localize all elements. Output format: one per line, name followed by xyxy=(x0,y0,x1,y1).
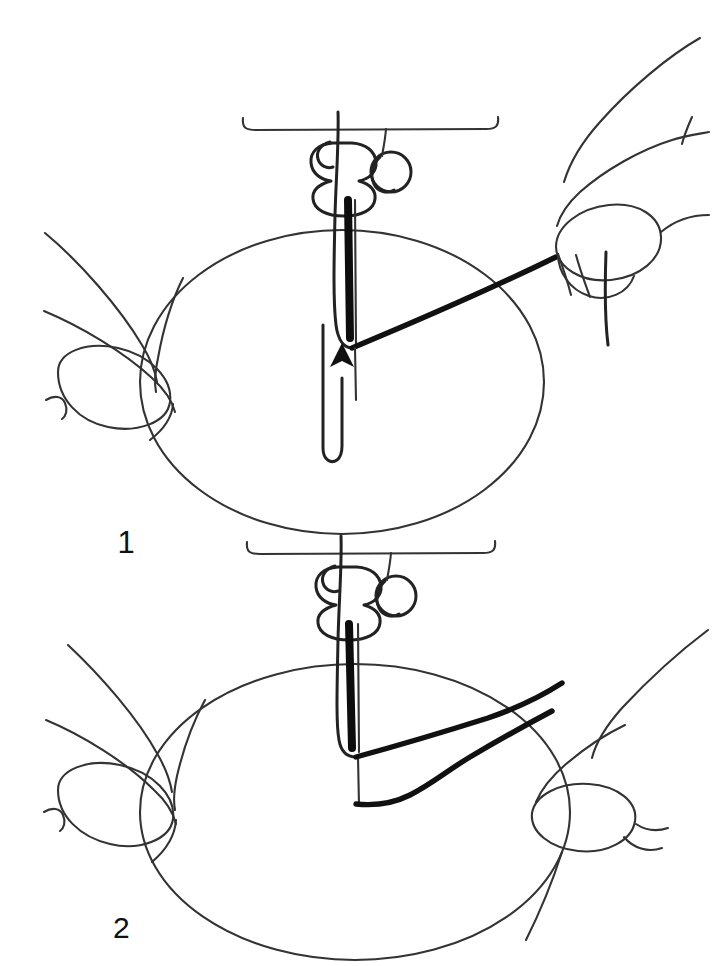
needle-tip xyxy=(358,757,359,805)
step-label-1: 1 xyxy=(117,525,134,560)
needle-outline-right xyxy=(355,200,356,345)
needle-icon xyxy=(349,624,352,748)
figure-canvas: 1 xyxy=(0,0,713,966)
needle-outline-right xyxy=(358,624,359,752)
step-label-2: 2 xyxy=(113,911,130,944)
illustration-page: 1 xyxy=(0,0,713,966)
needle-tip xyxy=(355,348,356,400)
needle-icon xyxy=(348,200,350,338)
